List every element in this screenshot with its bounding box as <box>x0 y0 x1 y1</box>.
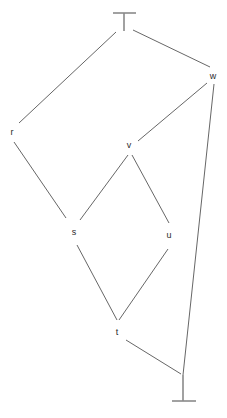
node-label-r: r <box>11 128 14 137</box>
edge-w-bottom <box>183 84 214 375</box>
tacks-group <box>113 13 196 401</box>
bottom-tack-icon <box>172 375 196 401</box>
edge-v-u <box>132 155 169 223</box>
edge-r-s <box>14 142 66 218</box>
edge-w-v <box>138 83 207 141</box>
edge-top-r <box>19 32 116 123</box>
top-tack-icon <box>113 13 136 31</box>
node-label-t: t <box>116 328 119 337</box>
edge-s-t <box>77 245 117 320</box>
edge-v-s <box>80 155 128 220</box>
edge-u-t <box>119 249 168 320</box>
node-label-w: w <box>210 72 217 81</box>
diagram-svg <box>0 0 227 418</box>
edge-t-bottom <box>126 340 181 374</box>
edges-group <box>14 30 214 375</box>
edge-top-w <box>133 30 210 67</box>
node-label-v: v <box>127 141 132 150</box>
node-label-s: s <box>72 228 77 237</box>
hasse-diagram-canvas: wrvsut <box>0 0 227 418</box>
node-label-u: u <box>166 231 171 240</box>
